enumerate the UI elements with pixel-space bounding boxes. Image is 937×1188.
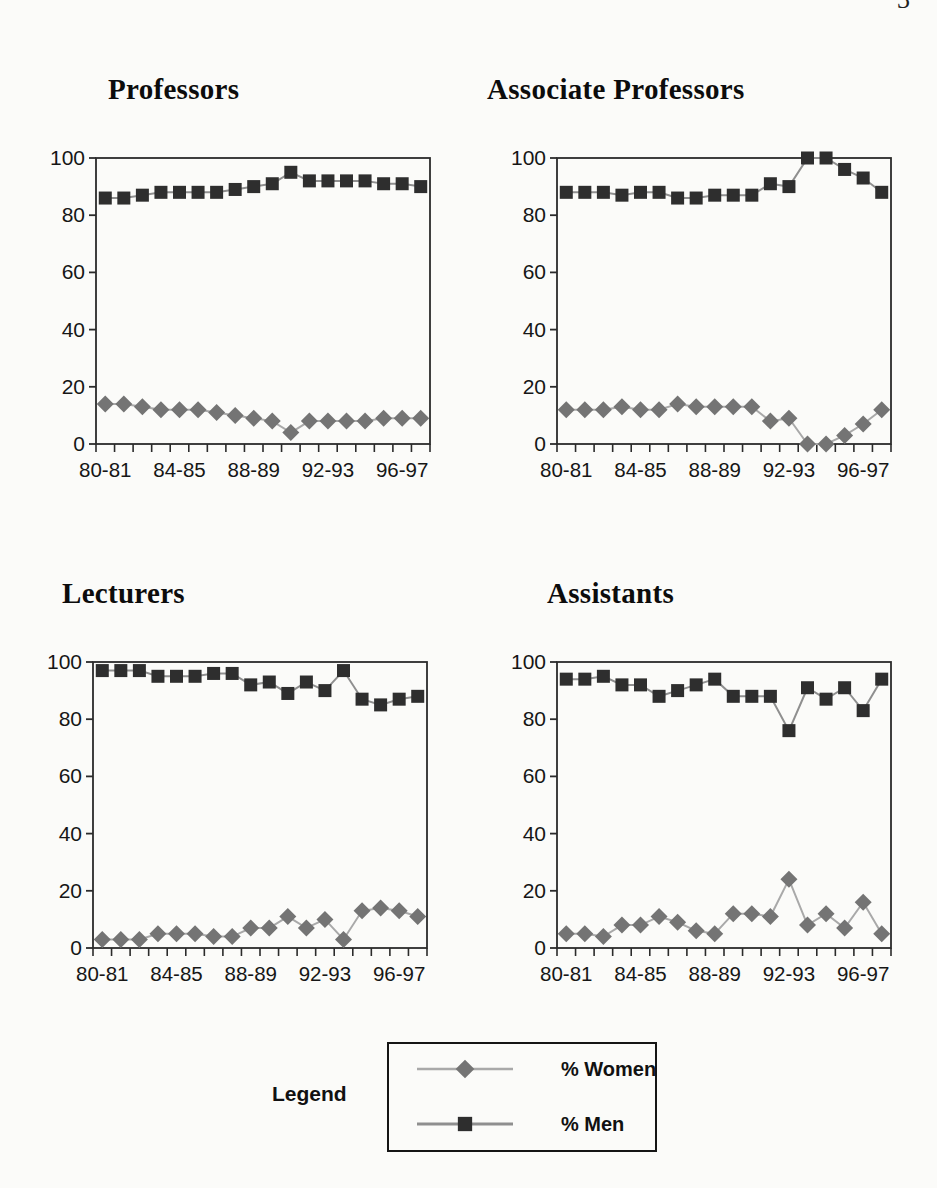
men-point-marker bbox=[634, 186, 647, 199]
men-point-marker bbox=[782, 180, 795, 193]
x-tick-label: 88-89 bbox=[225, 962, 277, 985]
men-point-marker bbox=[96, 664, 109, 677]
women-point-marker bbox=[372, 899, 389, 916]
y-tick-label: 100 bbox=[47, 650, 82, 673]
men-point-marker bbox=[136, 189, 149, 202]
chart-title-assistants: Assistants bbox=[547, 578, 674, 608]
men-point-marker bbox=[337, 664, 350, 677]
men-point-marker bbox=[653, 690, 666, 703]
y-tick-label: 60 bbox=[523, 764, 546, 787]
men-point-marker bbox=[801, 681, 814, 694]
men-point-marker bbox=[690, 678, 703, 691]
chart-lecturers: Lecturers 02040608010080-8184-8588-8992-… bbox=[27, 578, 472, 1008]
plot-frame bbox=[557, 158, 891, 444]
chart-professors: Professors 02040608010080-8184-8588-8992… bbox=[30, 74, 475, 504]
women-point-marker bbox=[818, 436, 835, 453]
men-point-marker bbox=[875, 186, 888, 199]
legend-label-women: % Women bbox=[561, 1058, 656, 1081]
men-point-marker bbox=[727, 189, 740, 202]
x-tick-label: 80-81 bbox=[540, 962, 592, 985]
women-point-marker bbox=[780, 871, 797, 888]
women-point-marker bbox=[115, 395, 132, 412]
women-point-marker bbox=[261, 919, 278, 936]
men-point-marker bbox=[173, 186, 186, 199]
women-point-marker bbox=[94, 931, 111, 948]
y-tick-label: 100 bbox=[50, 146, 85, 169]
women-point-marker bbox=[873, 401, 890, 418]
men-point-marker bbox=[857, 172, 870, 185]
x-tick-label: 96-97 bbox=[837, 962, 889, 985]
women-point-marker bbox=[190, 401, 207, 418]
women-point-marker bbox=[152, 401, 169, 418]
men-point-marker bbox=[801, 152, 814, 165]
men-point-marker bbox=[578, 186, 591, 199]
women-point-marker bbox=[245, 410, 262, 427]
x-tick-label: 84-85 bbox=[150, 962, 202, 985]
women-point-marker bbox=[456, 1060, 475, 1079]
men-point-marker bbox=[340, 174, 353, 187]
men-point-marker bbox=[578, 673, 591, 686]
y-tick-label: 20 bbox=[59, 879, 82, 902]
x-tick-label: 92-93 bbox=[302, 458, 354, 481]
y-tick-label: 40 bbox=[59, 822, 82, 845]
x-tick-label: 80-81 bbox=[540, 458, 592, 481]
x-tick-label: 96-97 bbox=[837, 458, 889, 481]
women-point-marker bbox=[873, 925, 890, 942]
men-point-marker bbox=[782, 724, 795, 737]
chart-associate-professors: Associate Professors 02040608010080-8184… bbox=[487, 74, 932, 504]
women-point-marker bbox=[576, 925, 593, 942]
women-point-marker bbox=[558, 925, 575, 942]
men-point-marker bbox=[229, 183, 242, 196]
men-point-marker bbox=[189, 670, 202, 683]
men-point-marker bbox=[764, 690, 777, 703]
men-point-marker bbox=[745, 189, 758, 202]
y-tick-label: 80 bbox=[523, 707, 546, 730]
chart-plot-assistants: 02040608010080-8184-8588-8992-9396-97 bbox=[491, 634, 936, 1004]
y-tick-label: 0 bbox=[534, 936, 546, 959]
women-point-marker bbox=[836, 919, 853, 936]
chart-title-lecturers: Lecturers bbox=[62, 578, 185, 608]
women-point-marker bbox=[227, 407, 244, 424]
women-point-marker bbox=[279, 908, 296, 925]
women-point-marker bbox=[131, 931, 148, 948]
legend-title: Legend bbox=[272, 1082, 347, 1106]
men-point-marker bbox=[396, 177, 409, 190]
men-series-line bbox=[566, 676, 881, 730]
plot-frame bbox=[557, 662, 891, 948]
men-point-marker bbox=[411, 690, 424, 703]
x-tick-label: 96-97 bbox=[373, 962, 425, 985]
men-point-marker bbox=[151, 670, 164, 683]
women-point-marker bbox=[357, 413, 374, 430]
men-point-marker bbox=[653, 186, 666, 199]
women-point-marker bbox=[651, 401, 668, 418]
women-point-marker bbox=[409, 908, 426, 925]
x-tick-label: 88-89 bbox=[689, 458, 741, 481]
men-point-marker bbox=[458, 1117, 472, 1131]
women-series-line bbox=[566, 879, 881, 936]
chart-plot-associate-professors: 02040608010080-8184-8588-8992-9396-97 bbox=[491, 130, 936, 500]
men-point-marker bbox=[857, 704, 870, 717]
women-point-marker bbox=[354, 902, 371, 919]
legend-item-women: % Women bbox=[389, 1056, 656, 1082]
women-point-marker bbox=[282, 424, 299, 441]
y-tick-label: 100 bbox=[511, 146, 546, 169]
men-point-marker bbox=[321, 174, 334, 187]
men-point-marker bbox=[708, 189, 721, 202]
x-tick-label: 92-93 bbox=[763, 962, 815, 985]
men-point-marker bbox=[560, 186, 573, 199]
men-point-marker bbox=[284, 166, 297, 179]
men-point-marker bbox=[764, 177, 777, 190]
men-series-line bbox=[105, 172, 420, 198]
x-tick-label: 92-93 bbox=[299, 962, 351, 985]
chart-plot-professors: 02040608010080-8184-8588-8992-9396-97 bbox=[30, 130, 475, 500]
y-tick-label: 20 bbox=[523, 879, 546, 902]
women-point-marker bbox=[651, 908, 668, 925]
men-point-marker bbox=[597, 670, 610, 683]
x-tick-label: 84-85 bbox=[614, 458, 666, 481]
men-point-marker bbox=[377, 177, 390, 190]
y-tick-label: 40 bbox=[62, 318, 85, 341]
women-point-marker bbox=[264, 413, 281, 430]
women-point-marker bbox=[669, 395, 686, 412]
women-point-marker bbox=[688, 922, 705, 939]
y-tick-label: 40 bbox=[523, 822, 546, 845]
